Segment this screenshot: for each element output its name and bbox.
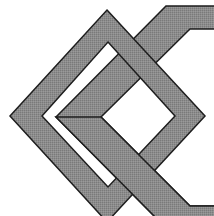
interlocking-frames-diagram xyxy=(0,0,214,216)
